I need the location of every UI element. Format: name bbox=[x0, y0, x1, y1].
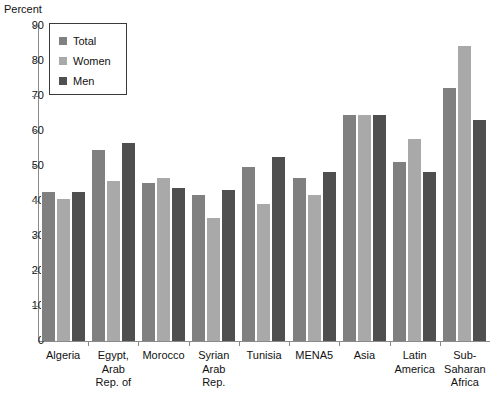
x-axis-label: LatinAmerica bbox=[390, 349, 440, 376]
x-axis-label-line: Arab bbox=[88, 363, 138, 377]
bar-men bbox=[121, 142, 136, 342]
bar-group bbox=[390, 26, 440, 341]
bar-total bbox=[442, 87, 457, 341]
bar-women bbox=[106, 180, 121, 341]
x-axis-label-line: Arab bbox=[189, 363, 239, 377]
bar-men bbox=[422, 171, 437, 341]
x-axis-label-line: MENA5 bbox=[289, 349, 339, 363]
bar-men bbox=[171, 187, 186, 341]
bar-total bbox=[91, 149, 106, 342]
bar-chart: Percent 9080706050403020100 AlgeriaEgypt… bbox=[0, 0, 499, 399]
bar-women bbox=[407, 138, 422, 341]
bar-men bbox=[71, 191, 86, 342]
x-axis-line bbox=[38, 341, 490, 342]
x-axis-label-line: Asia bbox=[339, 349, 389, 363]
x-tick-mark bbox=[88, 341, 89, 346]
x-axis-label-line: Syrian bbox=[189, 349, 239, 363]
bar-group bbox=[138, 26, 188, 341]
x-axis-label-line: Latin bbox=[390, 349, 440, 363]
bar-men bbox=[372, 114, 387, 342]
legend-swatch-icon bbox=[59, 77, 67, 85]
x-axis-label-line: Rep. of bbox=[88, 376, 138, 390]
x-axis-label-line: Sub- bbox=[440, 349, 490, 363]
x-axis-label: Asia bbox=[339, 349, 389, 363]
x-axis-label: Tunisia bbox=[239, 349, 289, 363]
bar-women bbox=[256, 203, 271, 341]
legend-swatch-icon bbox=[59, 57, 67, 65]
bar-women bbox=[307, 194, 322, 341]
x-axis-label: MENA5 bbox=[289, 349, 339, 363]
x-tick-mark bbox=[289, 341, 290, 346]
x-axis-label: Sub-SaharanAfrica bbox=[440, 349, 490, 390]
x-axis-label-line: Africa bbox=[440, 376, 490, 390]
legend-item: Total bbox=[59, 31, 126, 51]
bar-total bbox=[392, 161, 407, 341]
x-tick-mark bbox=[390, 341, 391, 346]
bar-women bbox=[206, 217, 221, 341]
legend-label: Men bbox=[73, 75, 94, 87]
legend-item: Men bbox=[59, 71, 126, 91]
bar-men bbox=[221, 189, 236, 341]
bar-total bbox=[191, 194, 206, 341]
x-axis-label: Egypt,ArabRep. of bbox=[88, 349, 138, 390]
bar-group bbox=[440, 26, 490, 341]
bar-men bbox=[271, 156, 286, 342]
legend-label: Total bbox=[73, 35, 96, 47]
x-tick-mark bbox=[189, 341, 190, 346]
bar-men bbox=[322, 171, 337, 341]
x-axis-label-line: America bbox=[390, 363, 440, 377]
x-axis-label-line: Tunisia bbox=[239, 349, 289, 363]
x-tick-mark bbox=[440, 341, 441, 346]
bar-total bbox=[342, 114, 357, 342]
bar-women bbox=[156, 177, 171, 342]
bar-group bbox=[289, 26, 339, 341]
chart-legend: TotalWomenMen bbox=[49, 23, 127, 95]
bar-total bbox=[41, 191, 56, 342]
x-axis-label-line: Egypt, bbox=[88, 349, 138, 363]
x-axis-label-line: Morocco bbox=[138, 349, 188, 363]
bar-group bbox=[189, 26, 239, 341]
bar-women bbox=[56, 198, 71, 342]
legend-swatch-icon bbox=[59, 37, 67, 45]
x-axis-label: Morocco bbox=[138, 349, 188, 363]
legend-items: TotalWomenMen bbox=[59, 31, 126, 91]
bar-total bbox=[141, 182, 156, 341]
x-tick-mark bbox=[239, 341, 240, 346]
x-axis-label-line: Rep. bbox=[189, 376, 239, 390]
x-axis-label-line: Algeria bbox=[38, 349, 88, 363]
bar-total bbox=[241, 166, 256, 341]
bar-women bbox=[457, 45, 472, 341]
bar-group bbox=[339, 26, 389, 341]
x-tick-mark bbox=[339, 341, 340, 346]
x-axis-label: SyrianArabRep. bbox=[189, 349, 239, 390]
bar-men bbox=[472, 119, 487, 341]
bar-women bbox=[357, 114, 372, 342]
bar-total bbox=[292, 177, 307, 342]
y-axis-title: Percent bbox=[4, 3, 42, 16]
x-axis-label-line: Saharan bbox=[440, 363, 490, 377]
legend-label: Women bbox=[73, 55, 111, 67]
bar-group bbox=[239, 26, 289, 341]
x-tick-mark bbox=[138, 341, 139, 346]
x-axis-label: Algeria bbox=[38, 349, 88, 363]
legend-item: Women bbox=[59, 51, 126, 71]
